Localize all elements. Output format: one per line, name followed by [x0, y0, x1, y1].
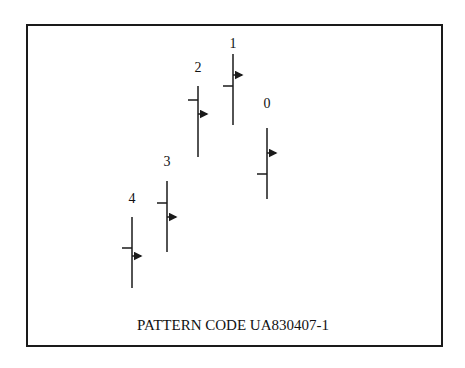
bar-label: 4 — [129, 191, 136, 206]
ohlc-bar-1: 1 — [223, 36, 242, 125]
ohlc-bar-2: 2 — [188, 60, 207, 157]
ohlc-bar-3: 3 — [157, 154, 176, 252]
bar-label: 2 — [195, 60, 202, 75]
ohlc-pattern-chart: 43210 PATTERN CODE UA830407-1 — [0, 0, 465, 368]
ohlc-bar-4: 4 — [122, 191, 141, 288]
ohlc-bar-0: 0 — [257, 96, 276, 199]
pattern-code-caption: PATTERN CODE UA830407-1 — [137, 317, 329, 333]
bar-label: 0 — [264, 96, 271, 111]
bar-label: 1 — [230, 36, 237, 51]
bars-group: 43210 — [122, 36, 276, 288]
bar-label: 3 — [164, 154, 171, 169]
